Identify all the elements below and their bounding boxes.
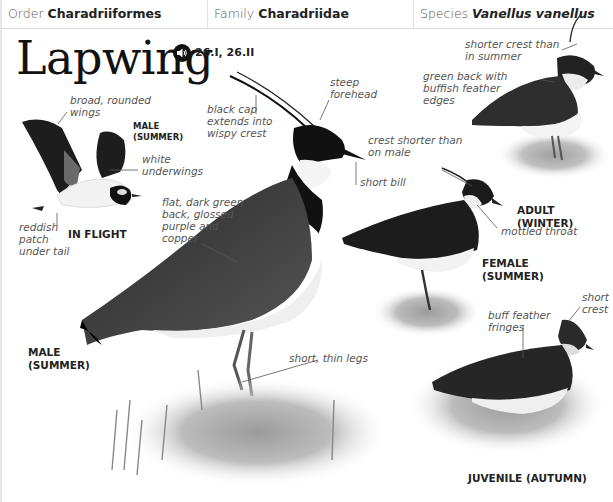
juvenile-autumn-bird [407, 320, 607, 455]
female-summer-bird [342, 168, 503, 337]
annotation-reddish-patch: reddish patch under tail [19, 221, 69, 257]
annotation-crest-shorter-female: crest shorter than on male [368, 134, 462, 158]
caption-in-flight: IN FLIGHT [68, 228, 127, 241]
annotation-buff-feather-fringes: buff feather fringes [488, 309, 550, 333]
caption-female-summer: FEMALE (SUMMER) [482, 257, 544, 283]
annotation-white-underwings: white underwings [142, 153, 203, 177]
caption-juvenile-autumn: JUVENILE (AUTUMN) [468, 472, 587, 485]
audio-track-refs: 26.I, 26.II [195, 44, 254, 62]
annotation-short-thin-legs: short, thin legs [289, 352, 368, 364]
annotation-mottled-throat: mottled throat [501, 225, 577, 237]
annotation-short-crest: short crest [582, 291, 609, 315]
in-flight-bird [22, 120, 142, 211]
caption-male-summer: MALE (SUMMER) [28, 346, 90, 372]
annotation-black-cap: black cap extends into wispy crest [207, 103, 273, 139]
speaker-icon[interactable] [173, 44, 191, 62]
annotation-shorter-crest: shorter crest than in summer [465, 38, 559, 62]
annotation-dark-green-back: flat, dark green back, glossed purple an… [162, 196, 243, 244]
annotation-short-bill: short bill [360, 176, 406, 188]
caption-in-flight-sex: MALE (SUMMER) [133, 121, 183, 143]
annotation-green-back-buffish: green back with buffish feather edges [423, 70, 507, 106]
annotation-broad-wings: broad, rounded wings [70, 94, 151, 118]
annotation-steep-forehead: steep forehead [330, 76, 377, 100]
